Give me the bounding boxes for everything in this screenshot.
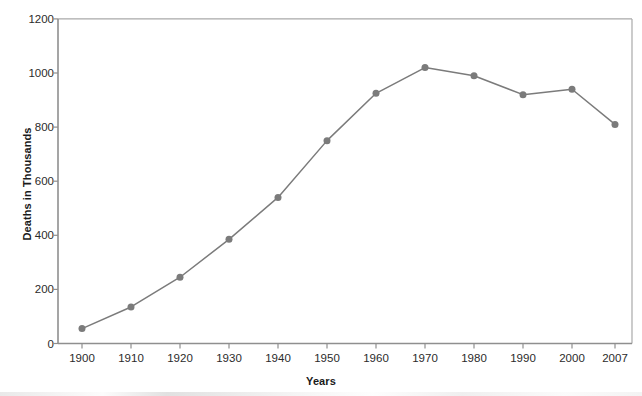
data-point <box>128 303 135 310</box>
data-point <box>275 194 282 201</box>
data-point <box>226 236 233 243</box>
data-point <box>612 121 619 128</box>
data-point <box>569 86 576 93</box>
data-point <box>79 325 86 332</box>
data-point <box>422 64 429 71</box>
data-point <box>177 274 184 281</box>
data-line <box>82 68 615 329</box>
data-point <box>373 90 380 97</box>
line-chart-figure: Deaths in Thousands 0 200 400 600 800 10… <box>0 0 642 396</box>
plot-area <box>0 0 642 396</box>
axis-frame <box>58 19 632 344</box>
data-point-markers <box>79 64 619 332</box>
data-point <box>520 91 527 98</box>
data-point <box>324 137 331 144</box>
data-point <box>471 72 478 79</box>
page-edge-artifact <box>0 392 642 396</box>
